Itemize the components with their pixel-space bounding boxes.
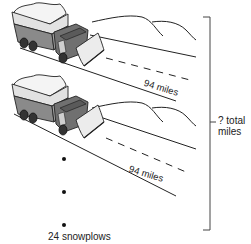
road-edge-far [100,117,196,149]
ellipsis-dot [62,223,66,227]
total-bracket [203,17,216,230]
road-edge-far [90,35,196,57]
total-label-line2: miles [218,126,245,137]
snowplow-diagram [0,0,251,244]
snowplow-truck-icon [12,3,104,66]
hill-outline [92,16,196,40]
hill-outline [92,102,196,126]
ellipsis-dot [62,190,66,194]
total-miles-label: ? total miles [218,115,245,137]
snowplow-truck-icon [12,75,104,138]
total-label-line1: ? total [218,115,245,126]
ellipsis-dot [62,157,66,161]
snowplow-count-label: 24 snowplows [48,231,111,242]
